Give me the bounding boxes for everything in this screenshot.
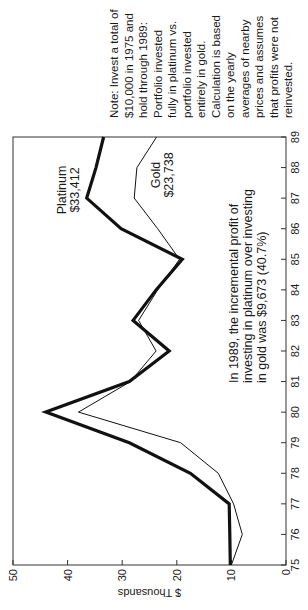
note-line: portfolio invested bbox=[181, 31, 193, 118]
annotation-line: investing in platinum over investing bbox=[241, 189, 255, 383]
y-tick-label: 10 bbox=[225, 569, 237, 581]
series-labels: Platinum$33,412Gold$23,738 bbox=[55, 152, 176, 214]
y-axis-label: $ Thousands bbox=[117, 587, 181, 599]
note-line: entirely in gold. bbox=[195, 41, 207, 118]
gold-value: $23,738 bbox=[162, 152, 176, 197]
y-tick-label: 50 bbox=[7, 569, 19, 581]
x-tick-label: 77 bbox=[289, 498, 301, 510]
x-tick-label: 84 bbox=[289, 284, 301, 296]
note-line: that profits were not bbox=[268, 16, 280, 118]
note-line: fully in platinum vs. bbox=[166, 21, 178, 118]
x-tick-label: 83 bbox=[289, 314, 301, 326]
x-tick-label: 81 bbox=[289, 375, 301, 387]
note-line: Calculation is based bbox=[210, 15, 222, 118]
note-line: averages of nearby bbox=[239, 19, 251, 118]
y-axis-ticks: 01020304050 bbox=[7, 560, 292, 581]
note-line: $10,000 in 1975 and bbox=[123, 13, 135, 118]
x-axis-ticks: 757677787980818283848586878889 bbox=[281, 131, 301, 571]
chart-figure: 757677787980818283848586878889 010203040… bbox=[0, 0, 308, 610]
note-line: Note: Invest a total of bbox=[108, 9, 120, 118]
y-tick-label: 30 bbox=[116, 569, 128, 581]
gold-label: Gold bbox=[149, 162, 163, 188]
note-line: hold through 1989: bbox=[137, 22, 149, 118]
x-tick-label: 85 bbox=[289, 253, 301, 265]
x-tick-label: 79 bbox=[289, 437, 301, 449]
annotation-line: in gold was $9,673 (40.7%) bbox=[255, 232, 269, 383]
rotated-chart-group: 757677787980818283848586878889 010203040… bbox=[7, 9, 301, 599]
y-tick-label: 40 bbox=[62, 569, 74, 581]
series-line-gold bbox=[79, 137, 243, 565]
x-tick-label: 82 bbox=[289, 345, 301, 357]
x-tick-label: 88 bbox=[289, 161, 301, 173]
note-line: Portfolio invested bbox=[152, 30, 164, 118]
note-text: Note: Invest a total of$10,000 in 1975 a… bbox=[108, 9, 294, 118]
note-line: prices and assumes bbox=[253, 15, 265, 118]
x-tick-label: 80 bbox=[289, 406, 301, 418]
y-tick-label: 20 bbox=[171, 569, 183, 581]
x-tick-label: 89 bbox=[289, 131, 301, 143]
annotation-text: In 1989, the incremental profit ofinvest… bbox=[227, 189, 269, 383]
x-tick-label: 87 bbox=[289, 192, 301, 204]
y-tick-label: 0 bbox=[280, 569, 292, 575]
note-line: on the yearly bbox=[224, 52, 236, 118]
x-tick-label: 86 bbox=[289, 223, 301, 235]
note-line: reinvested. bbox=[282, 62, 294, 118]
chart-svg: 757677787980818283848586878889 010203040… bbox=[0, 0, 308, 610]
x-tick-label: 78 bbox=[289, 467, 301, 479]
x-tick-label: 76 bbox=[289, 528, 301, 540]
platinum-value: $33,412 bbox=[68, 167, 82, 212]
platinum-label: Platinum bbox=[55, 166, 69, 215]
annotation-line: In 1989, the incremental profit of bbox=[227, 203, 241, 383]
